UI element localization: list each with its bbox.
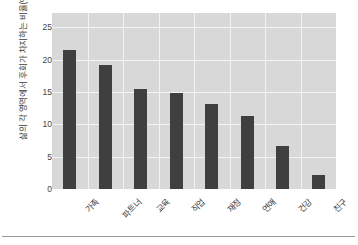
x-axis-tick-label: 건강 [294, 195, 314, 215]
x-axis-tick-label: 친구 [330, 195, 350, 215]
gridline-vertical [123, 13, 124, 189]
x-axis-tick-label: 직업 [188, 195, 208, 215]
chart-figure: 삶의 각 영역에서 후회가 차지하는 비율(%) 0510152025 가족파트… [0, 0, 358, 245]
x-axis-tick-label: 파트너 [119, 195, 144, 220]
bar [241, 116, 254, 189]
x-axis-tick-labels: 가족파트너교육직업재정연애건강친구 [52, 189, 336, 241]
bar [63, 50, 76, 189]
gridline-vertical [265, 13, 266, 189]
x-axis-tick-label: 재정 [223, 195, 243, 215]
bar [205, 104, 218, 189]
y-axis-tick-label: 25 [4, 22, 52, 32]
y-axis-tick-label: 5 [4, 152, 52, 162]
x-axis-tick-label: 교육 [152, 195, 172, 215]
y-axis-tick-labels: 0510152025 [0, 0, 52, 245]
gridline-vertical [159, 13, 160, 189]
gridline-vertical [301, 13, 302, 189]
bar [99, 65, 112, 189]
bar [170, 93, 183, 189]
bar [276, 146, 289, 189]
y-axis-tick-label: 10 [4, 119, 52, 129]
x-axis-tick-label: 연애 [259, 195, 279, 215]
plot-area [52, 13, 336, 189]
y-axis-tick-label: 0 [4, 184, 52, 194]
gridline-vertical [88, 13, 89, 189]
gridline-vertical [194, 13, 195, 189]
x-axis-tick-label: 가족 [81, 195, 101, 215]
gridline-vertical [230, 13, 231, 189]
bar [134, 89, 147, 189]
y-axis-tick-label: 15 [4, 87, 52, 97]
bar [312, 175, 325, 189]
y-axis-tick-label: 20 [4, 55, 52, 65]
